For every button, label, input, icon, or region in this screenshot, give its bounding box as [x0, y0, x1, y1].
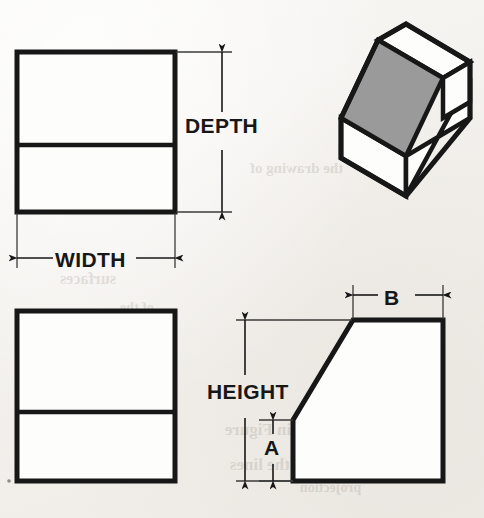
- width-dimension-label: WIDTH: [55, 249, 126, 270]
- drawing-page: the drawing ofshown in Figurelocate the …: [0, 0, 484, 518]
- side-view-outline: [293, 320, 443, 481]
- side-view: [293, 320, 443, 481]
- top-view: [17, 52, 175, 212]
- front-view: [7, 311, 175, 483]
- front-view-outline: [17, 311, 175, 481]
- top-view-outline: [17, 52, 175, 212]
- depth-dimension-label: DEPTH: [185, 115, 258, 136]
- b-dimension-label: B: [384, 287, 400, 308]
- a-dimension-label: A: [264, 437, 280, 458]
- stray-ink-speck: [7, 479, 11, 483]
- isometric-view: [341, 24, 470, 196]
- height-dimension-label: HEIGHT: [207, 381, 289, 402]
